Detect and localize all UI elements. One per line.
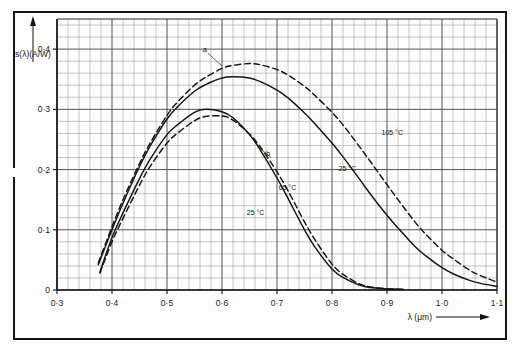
y-axis-tick-label: 0·1 [38,225,51,235]
axis-ticks [53,49,497,294]
figure-container: 0·30·40·50·60·70·80·91·01·100·10·20·30·4… [0,0,519,351]
x-axis-tick-label: 1·1 [491,298,504,308]
y-axis-tick-label: 0 [45,285,50,295]
curve-b-25C [100,109,404,289]
curve-b-callout: b [266,149,270,158]
chart-plot-area: 0·30·40·50·60·70·80·91·01·100·10·20·30·4… [0,0,519,351]
y-axis-title: s(λ)(A/W) [15,49,51,59]
label-a-25c: 25 °C [339,165,357,172]
curve-a-105C [98,64,497,283]
x-axis-tick-label: 1·0 [436,298,449,308]
axis-titles: s(λ)(A/W)λ (μm) [15,16,490,322]
y-axis-tick-label: 0·2 [38,165,51,175]
y-axis-arrow-head [30,16,36,26]
spectral-response-chart: 0·30·40·50·60·70·80·91·01·100·10·20·30·4… [0,0,519,351]
label-b-65c: 65 °C [279,184,297,191]
x-axis-tick-label: 0·4 [106,298,119,308]
x-axis-tick-label: 0·3 [51,298,64,308]
curve-b-65C [100,116,404,290]
label-b-25c: 25 °C [247,209,265,216]
x-axis-arrow-head [480,314,490,320]
x-axis-title: λ (μm) [408,312,432,322]
x-axis-tick-label: 0·6 [216,298,229,308]
x-axis-tick-label: 0·9 [381,298,394,308]
axis-tick-labels: 0·30·40·50·60·70·80·91·01·100·10·20·30·4 [38,44,504,308]
y-axis-tick-label: 0·3 [38,104,51,114]
curve-a-callout: a [203,45,208,54]
x-axis-tick-label: 0·7 [271,298,284,308]
x-axis-tick-label: 0·8 [326,298,339,308]
label-a-105c: 105 °C [382,129,403,136]
annotation-leader-line [208,53,222,66]
x-axis-tick-label: 0·5 [161,298,174,308]
